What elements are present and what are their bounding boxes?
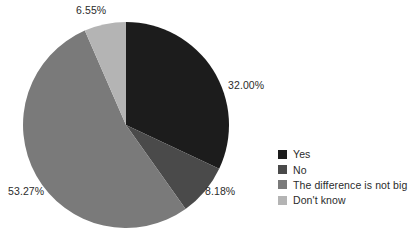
legend-swatch-icon xyxy=(278,180,287,189)
legend-item-difference-is-not-big: The difference is not big xyxy=(278,177,411,192)
legend-item-label: Yes xyxy=(293,149,310,160)
data-label-difference-is-not-big: 53.27% xyxy=(8,185,44,197)
data-label-dont-know: 6.55% xyxy=(76,4,106,16)
legend-item-no: No xyxy=(278,162,411,177)
pie-chart-figure: 32.00% 8.18% 53.27% 6.55% Yes No The dif… xyxy=(0,0,411,233)
legend-item-label: No xyxy=(293,165,307,176)
pie-slice-group xyxy=(23,22,229,228)
legend-swatch-icon xyxy=(278,150,287,159)
chart-legend: Yes No The difference is not big Don't k… xyxy=(278,147,411,208)
legend-item-label: The difference is not big xyxy=(293,180,407,191)
data-label-yes: 32.00% xyxy=(228,79,264,91)
legend-item-label: Don't know xyxy=(293,195,346,206)
legend-item-yes: Yes xyxy=(278,147,411,162)
legend-swatch-icon xyxy=(278,165,287,174)
data-label-no: 8.18% xyxy=(205,185,235,197)
legend-item-dont-know: Don't know xyxy=(278,193,411,208)
legend-swatch-icon xyxy=(278,196,287,205)
